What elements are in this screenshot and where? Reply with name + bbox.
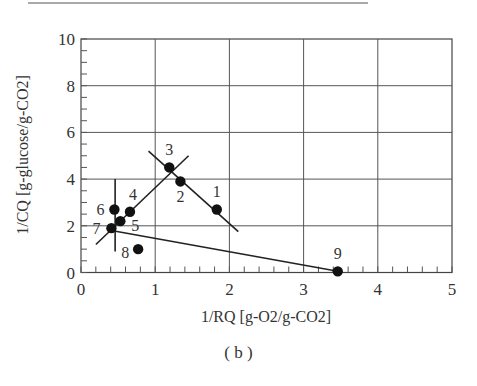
- data-point-3: [164, 162, 174, 172]
- point-label-7: 7: [92, 220, 100, 237]
- line-3-2-1: [149, 151, 239, 232]
- x-tick-label: 4: [374, 280, 383, 299]
- data-point-2: [175, 176, 185, 186]
- y-tick-label: 8: [67, 77, 76, 96]
- point-label-6: 6: [96, 201, 104, 218]
- point-label-9: 9: [334, 245, 342, 262]
- grid: [81, 39, 452, 273]
- data-point-7: [106, 223, 116, 233]
- x-tick-label: 2: [225, 280, 234, 299]
- data-point-8: [133, 244, 143, 254]
- y-tick-label: 0: [67, 264, 76, 283]
- point-label-5: 5: [131, 217, 139, 234]
- data-point-4: [125, 207, 135, 217]
- point-labels: 123456789: [92, 141, 341, 262]
- y-axis-title: 1/CQ [g-glucose/g-CO2]: [14, 75, 32, 235]
- x-tick-labels: 012345: [77, 280, 457, 299]
- data-point-6: [109, 204, 119, 214]
- point-label-8: 8: [121, 244, 129, 261]
- x-tick-label: 3: [299, 280, 308, 299]
- x-tick-label: 5: [448, 280, 457, 299]
- y-tick-labels: 0246810: [58, 30, 76, 283]
- y-tick-label: 10: [58, 30, 75, 49]
- scatter-chart: 012345 0246810 123456789 1/RQ [g-O2/g-CO…: [0, 0, 477, 386]
- data-point-9: [333, 266, 343, 276]
- point-label-1: 1: [213, 183, 221, 200]
- figure-caption: ( b ): [0, 343, 477, 363]
- point-label-2: 2: [176, 188, 184, 205]
- point-label-3: 3: [165, 141, 173, 158]
- plot-frame: [81, 39, 452, 273]
- x-tick-label: 1: [151, 280, 160, 299]
- axis-ticks: [81, 39, 452, 273]
- y-tick-label: 2: [67, 217, 76, 236]
- point-label-4: 4: [129, 186, 137, 203]
- x-axis-title: 1/RQ [g-O2/g-CO2]: [201, 308, 331, 326]
- y-tick-label: 6: [67, 123, 76, 142]
- data-point-1: [212, 204, 222, 214]
- data-point-5: [115, 216, 125, 226]
- y-tick-label: 4: [67, 170, 76, 189]
- x-tick-label: 0: [77, 280, 86, 299]
